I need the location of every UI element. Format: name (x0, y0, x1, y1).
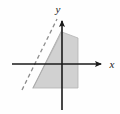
graph-figure: x y (0, 0, 120, 114)
x-axis-label: x (109, 58, 115, 70)
y-axis-label: y (55, 3, 61, 15)
coordinate-plane-svg: x y (0, 0, 120, 114)
